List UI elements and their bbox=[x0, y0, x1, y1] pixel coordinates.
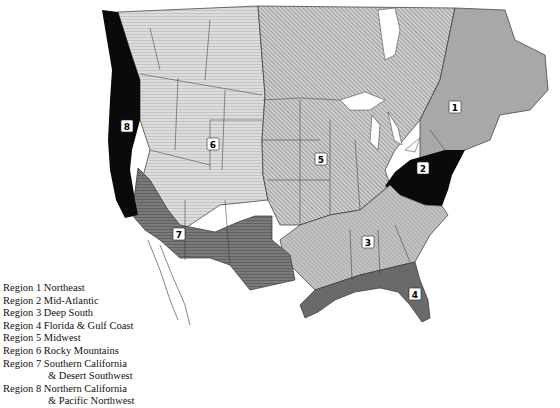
svg-text:7: 7 bbox=[176, 230, 182, 240]
legend-region-1: Region 1 Northeast bbox=[3, 282, 134, 295]
svg-text:5: 5 bbox=[318, 155, 324, 165]
badge-region-2: 2 bbox=[417, 162, 429, 174]
badge-region-4: 4 bbox=[409, 288, 421, 300]
legend-region-5: Region 5 Midwest bbox=[3, 332, 134, 345]
map-legend: Region 1 Northeast Region 2 Mid-Atlantic… bbox=[3, 282, 134, 408]
badge-region-3: 3 bbox=[362, 236, 374, 248]
legend-region-6: Region 6 Rocky Mountains bbox=[3, 345, 134, 358]
svg-text:8: 8 bbox=[124, 122, 130, 132]
badge-region-6: 6 bbox=[207, 138, 219, 150]
legend-region-7: Region 7 Southern California bbox=[3, 358, 134, 371]
badge-region-8: 8 bbox=[121, 120, 133, 132]
svg-text:3: 3 bbox=[365, 238, 371, 248]
svg-text:4: 4 bbox=[412, 290, 418, 300]
badge-region-7: 7 bbox=[173, 228, 185, 240]
legend-region-2: Region 2 Mid-Atlantic bbox=[3, 295, 134, 308]
legend-region-8: Region 8 Northern California bbox=[3, 383, 134, 396]
legend-region-3: Region 3 Deep South bbox=[3, 307, 134, 320]
legend-region-8-cont: & Pacific Northwest bbox=[3, 395, 134, 408]
badge-region-5: 5 bbox=[315, 153, 327, 165]
legend-region-7-cont: & Desert Southwest bbox=[3, 370, 134, 383]
svg-text:1: 1 bbox=[452, 103, 458, 113]
svg-text:6: 6 bbox=[210, 140, 216, 150]
badge-region-1: 1 bbox=[449, 101, 461, 113]
legend-region-4: Region 4 Florida & Gulf Coast bbox=[3, 320, 134, 333]
svg-text:2: 2 bbox=[420, 164, 426, 174]
